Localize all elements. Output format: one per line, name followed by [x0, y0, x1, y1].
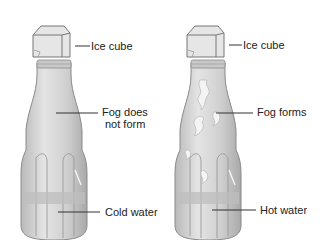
cold-water [23, 192, 85, 204]
right-fog-label: Fog forms [257, 106, 307, 118]
right-ice-cube [187, 26, 224, 57]
left-water-label: Cold water [105, 206, 158, 218]
left-bottle [21, 60, 87, 240]
left-fog-label-line2: not form [105, 118, 145, 130]
left-ice-cube-label: Ice cube [91, 40, 133, 52]
left-ice-cube [33, 26, 70, 57]
right-ice-cube-label: Ice cube [243, 39, 285, 51]
left-fog-label-line1: Fog does [102, 106, 148, 118]
right-bottle [175, 60, 241, 240]
hot-water [177, 192, 239, 204]
right-water-label: Hot water [260, 204, 307, 216]
